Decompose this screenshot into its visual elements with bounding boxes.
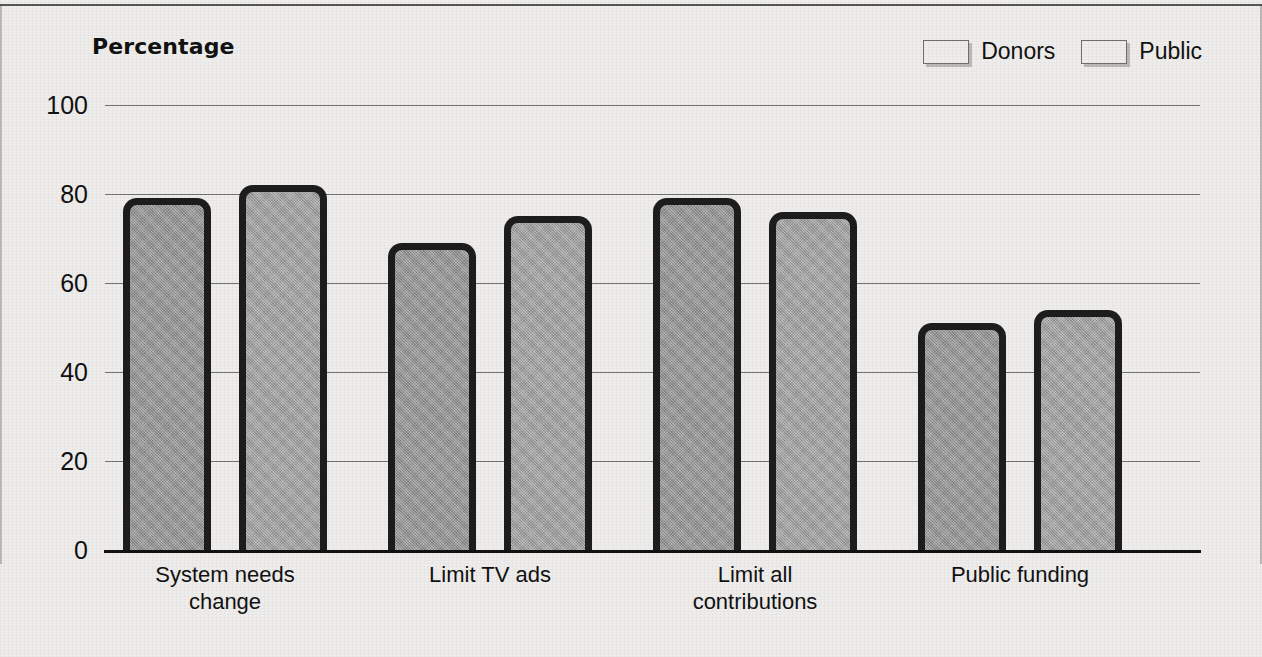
- y-tick-label-40: 40: [8, 358, 88, 387]
- figure-top-border: [0, 4, 1262, 6]
- category-label-1: Limit TV ads: [360, 562, 620, 589]
- chart-legend: Donors Public: [923, 38, 1202, 65]
- bar-chart-figure: Percentage Donors Public 020406080100 Sy…: [0, 0, 1262, 657]
- legend-swatch-public: [1081, 40, 1127, 64]
- bar-donors-1: [388, 243, 476, 550]
- category-label-line: Limit TV ads: [360, 562, 620, 589]
- bar-public-3: [1034, 310, 1122, 550]
- plot-area: 020406080100: [105, 105, 1200, 550]
- bar-public-2: [769, 212, 857, 550]
- legend-item-donors: Donors: [923, 38, 1055, 65]
- category-label-2: Limit allcontributions: [625, 562, 885, 616]
- category-label-line: change: [95, 589, 355, 616]
- category-label-line: contributions: [625, 589, 885, 616]
- y-tick-label-80: 80: [8, 180, 88, 209]
- category-label-line: System needs: [95, 562, 355, 589]
- category-label-3: Public funding: [890, 562, 1150, 589]
- legend-label-donors: Donors: [981, 38, 1055, 65]
- gridline-100: [105, 105, 1200, 106]
- category-label-0: System needschange: [95, 562, 355, 616]
- y-tick-label-60: 60: [8, 269, 88, 298]
- bar-public-0: [239, 185, 327, 550]
- figure-left-border: [0, 4, 2, 564]
- legend-item-public: Public: [1081, 38, 1202, 65]
- y-tick-label-20: 20: [8, 447, 88, 476]
- bar-donors-3: [918, 323, 1006, 550]
- y-tick-label-100: 100: [8, 91, 88, 120]
- bar-public-1: [504, 216, 592, 550]
- category-label-line: Public funding: [890, 562, 1150, 589]
- legend-label-public: Public: [1139, 38, 1202, 65]
- category-label-line: Limit all: [625, 562, 885, 589]
- legend-swatch-donors: [923, 40, 969, 64]
- bar-donors-2: [653, 198, 741, 550]
- bar-donors-0: [123, 198, 211, 550]
- y-axis-title: Percentage: [92, 34, 235, 59]
- x-axis-baseline: [104, 550, 1201, 553]
- y-tick-label-0: 0: [8, 536, 88, 565]
